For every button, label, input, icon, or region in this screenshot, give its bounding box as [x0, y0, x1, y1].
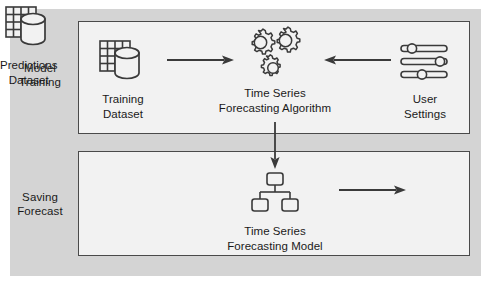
phase-label-saving-forecast: Saving Forecast [5, 190, 75, 218]
node-user-settings: User Settings [380, 34, 470, 121]
sliders-icon [380, 34, 470, 90]
dataset-icon [78, 34, 168, 90]
arrow-dataset-to-algorithm [166, 52, 236, 68]
arrow-settings-to-algorithm [322, 52, 392, 68]
node-caption: User Settings [380, 92, 470, 121]
arrow-algorithm-to-model [267, 121, 283, 171]
node-caption: Predictions Dataset [0, 58, 57, 87]
diagram-canvas: Model Training Saving Forecast [0, 0, 490, 285]
arrow-model-to-predictions [338, 182, 408, 198]
node-training-dataset: Training Dataset [78, 34, 168, 121]
node-caption: Time Series Forecasting Model [210, 224, 340, 253]
node-caption: Training Dataset [78, 92, 168, 121]
node-forecasting-model: Time Series Forecasting Model [210, 166, 340, 253]
node-caption: Time Series Forecasting Algorithm [210, 86, 340, 115]
node-predictions-dataset: Predictions Dataset [0, 0, 57, 87]
dataset-icon [0, 0, 57, 56]
hierarchy-icon [210, 166, 340, 222]
node-forecasting-algorithm: Time Series Forecasting Algorithm [210, 28, 340, 115]
